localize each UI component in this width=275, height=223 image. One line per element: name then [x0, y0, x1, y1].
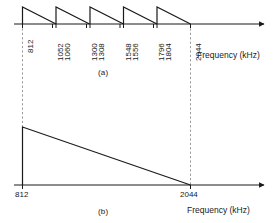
panel-b-ticks	[23, 185, 191, 189]
panel-b	[14, 127, 264, 189]
channel-spectrum-3	[90, 7, 124, 24]
panel-b-caption: (b)	[98, 207, 108, 216]
channel-spectrum-1	[23, 7, 57, 24]
tick-label-1308: 1308	[97, 43, 106, 61]
tick-label-1556: 1556	[131, 43, 140, 61]
figure-canvas	[0, 0, 275, 223]
tick-label-812: 812	[26, 40, 35, 53]
composite-spectrum	[23, 127, 191, 185]
channel-spectra	[23, 7, 191, 24]
tick-label-b-2044: 2044	[180, 190, 198, 199]
panel-a-axis-label: Frequency (kHz)	[197, 50, 260, 60]
tick-label-1060: 1060	[63, 43, 72, 61]
panel-b-axis-label: Frequency (kHz)	[187, 205, 250, 215]
channel-spectrum-5	[157, 7, 191, 24]
channel-spectrum-4	[124, 7, 158, 24]
panel-a-ticks	[23, 24, 191, 28]
channel-spectrum-2	[56, 7, 90, 24]
tick-label-b-812: 812	[15, 190, 28, 199]
tick-label-1804: 1804	[164, 43, 173, 61]
panel-a-caption: (a)	[98, 68, 108, 77]
panel-a	[14, 7, 264, 28]
